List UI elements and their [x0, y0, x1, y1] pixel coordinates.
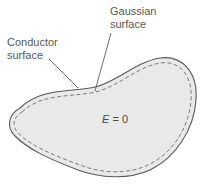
gaussian-surface-label: Gaussian surface: [110, 5, 156, 31]
diagram-canvas: [0, 0, 203, 184]
conductor-label-line1: Conductor: [7, 36, 58, 49]
gauss-law-conductor-diagram: Gaussian surface Conductor surface E = 0: [0, 0, 203, 184]
gaussian-label-line1: Gaussian: [110, 5, 156, 18]
conductor-leader-line: [49, 59, 78, 88]
field-relation: = 0: [109, 113, 128, 125]
conductor-surface-label: Conductor surface: [7, 36, 58, 62]
gaussian-label-line2: surface: [110, 18, 156, 31]
field-zero-label: E = 0: [102, 113, 128, 125]
conductor-label-line2: surface: [7, 49, 58, 62]
